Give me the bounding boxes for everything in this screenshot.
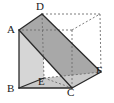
vertex-label-f: F <box>96 65 102 76</box>
vertex-label-a: A <box>7 24 15 35</box>
figure-canvas <box>0 0 114 103</box>
vertex-label-b: B <box>7 83 14 94</box>
face-layer <box>19 14 101 88</box>
edge-backtop-topright <box>72 14 100 30</box>
vertex-label-e: E <box>38 76 45 87</box>
vertex-label-c: C <box>67 87 74 98</box>
vertex-label-d: D <box>36 1 44 12</box>
geometry-figure: ABCDEF <box>0 0 114 103</box>
